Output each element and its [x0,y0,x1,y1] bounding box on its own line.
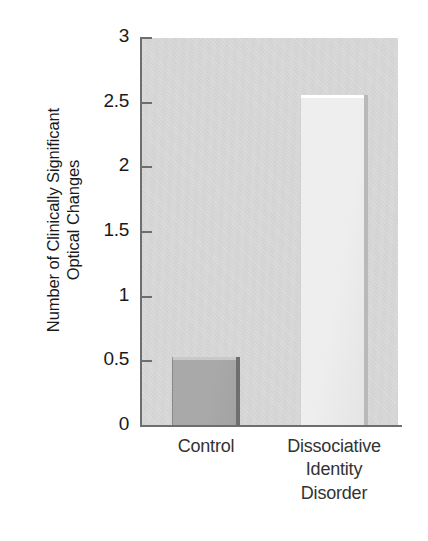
y-axis-tick-label: 1.5 [83,219,129,241]
y-axis-tick-label: 1 [83,284,129,306]
bar-fill [300,95,368,426]
bar-control [172,357,240,426]
y-axis-tick-mark [141,425,152,427]
bar-right-shadow [236,357,240,426]
figure-canvas: Number of Clinically Significant Optical… [0,0,428,541]
y-axis-tick-label: 3 [83,25,129,47]
x-axis-category-label: DissociativeIdentityDisorder [254,435,414,505]
bar-left-edge [172,357,173,426]
y-axis-tick-label: 0 [83,413,129,435]
x-axis-category-label-line: Dissociative [254,435,414,458]
y-axis-tick-mark [141,231,152,233]
y-axis-title-line-2: Optical Changes [63,160,83,281]
y-axis-tick-label: 2.5 [83,90,129,112]
y-axis-tick-mark [141,360,152,362]
y-axis-tick-label: 2 [83,154,129,176]
bar-top-highlight [300,95,365,98]
y-axis-tick-label: 0.5 [83,348,129,370]
y-axis-tick-mark [141,102,152,104]
bar-fill [172,357,240,426]
y-axis-tick-mark [141,37,152,39]
x-axis-category-label-line: Disorder [254,482,414,505]
x-axis-category-label-line: Identity [254,458,414,481]
bar-right-shadow [364,95,368,426]
x-axis-line [140,425,402,427]
y-axis-tick-mark [141,166,152,168]
bar-top-highlight [172,357,237,360]
bar-dissociative-identity-disorder [300,95,368,426]
y-axis-tick-mark [141,296,152,298]
y-axis-title-line-1: Number of Clinically Significant [43,108,63,332]
plot-area [142,38,398,426]
bar-left-edge [300,95,301,426]
